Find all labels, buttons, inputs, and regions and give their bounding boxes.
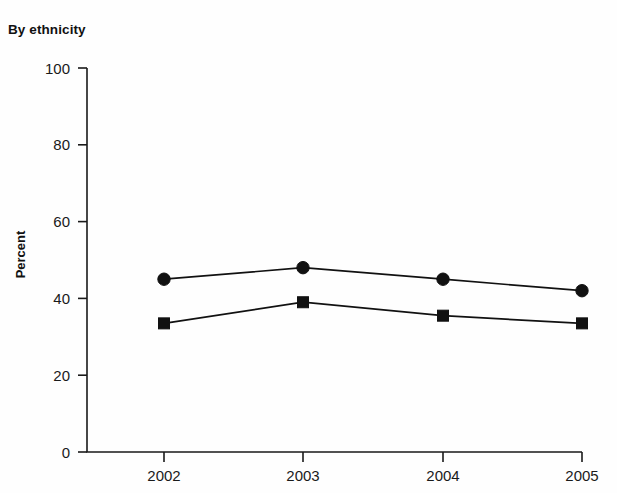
data-point-circle (158, 273, 170, 285)
series-line (164, 302, 582, 323)
data-series-group (158, 261, 588, 328)
chart-figure: By ethnicity Percent 020406080100 200220… (0, 0, 617, 493)
data-point-square (577, 318, 588, 329)
y-tick-label: 100 (45, 60, 70, 77)
data-point-circle (576, 285, 588, 297)
axis-spine (87, 68, 582, 452)
x-tick-label: 2002 (147, 467, 180, 484)
axis-lines (87, 68, 582, 452)
series-1 (158, 261, 588, 296)
y-tick-label: 40 (53, 290, 70, 307)
data-point-square (438, 310, 449, 321)
y-tick-label: 80 (53, 136, 70, 153)
x-tick-label: 2005 (565, 467, 598, 484)
data-point-square (298, 297, 309, 308)
series-line (164, 268, 582, 291)
x-tick-label: 2004 (426, 467, 459, 484)
series-2 (159, 297, 588, 329)
x-tick-label: 2003 (286, 467, 319, 484)
data-point-circle (297, 261, 309, 273)
plot-area: 020406080100 2002200320042005 (0, 0, 617, 493)
x-axis-ticks: 2002200320042005 (147, 452, 598, 484)
y-axis-ticks: 020406080100 (45, 60, 87, 461)
data-point-circle (437, 273, 449, 285)
y-tick-label: 60 (53, 213, 70, 230)
data-point-square (159, 318, 170, 329)
y-tick-label: 20 (53, 367, 70, 384)
y-tick-label: 0 (62, 444, 70, 461)
